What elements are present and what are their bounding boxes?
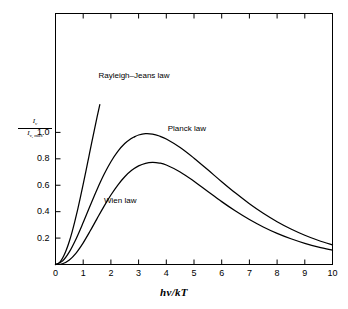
x-tick-label: 9 (295, 269, 315, 278)
blackbody-radiation-chart: 0123456789100.20.40.60.81.0 Rayleigh–Jea… (0, 0, 348, 309)
x-tick-label: 1 (73, 269, 93, 278)
x-axis-title: hν/kT (0, 286, 348, 298)
x-tick-label: 0 (46, 269, 66, 278)
x-tick-label: 5 (184, 269, 204, 278)
x-tick-label: 7 (239, 269, 259, 278)
y-axis-ticks (56, 132, 61, 238)
y-axis-denominator: Iv, max (18, 129, 52, 138)
x-tick-label: 4 (156, 269, 176, 278)
x-tick-label: 8 (267, 269, 287, 278)
y-tick-label: 0.2 (28, 234, 50, 243)
x-axis-ticks-top (56, 14, 333, 19)
y-axis-title: Iv Iv, max (18, 118, 52, 138)
annotation-planck-law: Planck law (168, 125, 206, 133)
plot-frame (56, 14, 333, 265)
y-tick-label: 0.8 (28, 154, 50, 163)
y-axis-numerator: Iv (18, 118, 52, 127)
annotation-wien-law: Wien law (104, 197, 136, 205)
x-tick-label: 2 (101, 269, 121, 278)
x-tick-label: 3 (129, 269, 149, 278)
plot-canvas (0, 0, 348, 309)
curve-rayleigh-jeans-law (56, 105, 100, 265)
y-tick-label: 0.6 (28, 181, 50, 190)
x-axis-title-text: hν/kT (160, 286, 188, 298)
x-axis-ticks (56, 260, 333, 265)
curve-wien-law (56, 162, 333, 264)
curve-planck-law (56, 134, 333, 265)
y-tick-label: 0.4 (28, 207, 50, 216)
annotation-rayleigh-jeans-law: Rayleigh–Jeans law (98, 72, 169, 80)
x-tick-label: 10 (323, 269, 343, 278)
x-tick-label: 6 (212, 269, 232, 278)
